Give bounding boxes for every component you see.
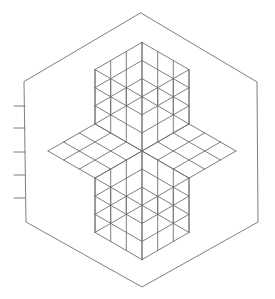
grid-line <box>95 232 142 259</box>
grid-line <box>142 42 189 69</box>
left-tick-marks <box>14 106 25 198</box>
grid-faces <box>48 42 236 259</box>
isometric-star-figure <box>0 0 275 299</box>
diagram-canvas <box>0 0 275 299</box>
grid-line <box>95 42 142 69</box>
grid-line <box>142 232 189 259</box>
